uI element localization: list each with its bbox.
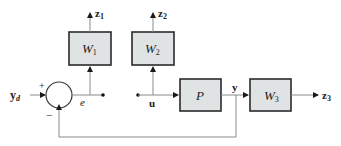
z3-label: z3 [322,89,331,103]
u-label: u [149,97,155,109]
yd-label: yd [10,88,21,103]
e-label: e [80,96,85,108]
z2-label: z2 [158,7,167,21]
y-label: y [232,81,238,93]
block-diagram: yd + − e W1 W2 P W3 z1 z2 z3 u y [0,0,341,146]
minus-sign: − [46,109,52,121]
z1-label: z1 [95,7,104,21]
p-label: P [195,88,204,103]
plus-sign: + [39,80,45,91]
error-terminal-dot [101,93,105,97]
